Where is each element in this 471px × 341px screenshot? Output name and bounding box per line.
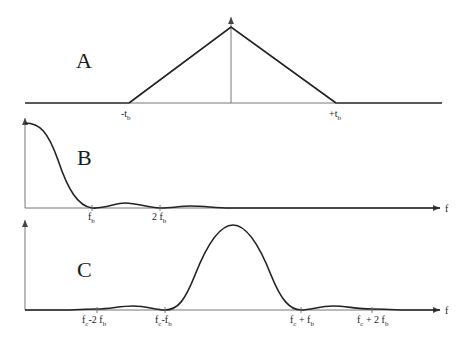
tick-fc-minus-2fb: fc-2 fb: [82, 314, 107, 328]
panel-a-triangle-pulse: [129, 27, 336, 103]
tick-minus-tb: -tb: [121, 108, 131, 122]
panel-b-label: B: [77, 145, 92, 170]
tick-fc-minus-fb: fc-fb: [155, 314, 172, 328]
tick-fc-plus-fb: fc + fb: [290, 314, 314, 328]
panel-a-label: A: [76, 48, 92, 73]
tick-2fb: 2 fb: [152, 211, 167, 225]
panel-b: B f fb 2 fb: [25, 118, 449, 225]
panel-c-axis-label: f: [445, 305, 449, 316]
panel-b-axis-label: f: [445, 203, 449, 214]
panel-c: C f fc-2 fb fc-fb fc + fb fc + 2 fb: [25, 220, 449, 328]
panel-a: A -tb +tb: [25, 17, 442, 122]
tick-fb: fb: [88, 211, 95, 225]
panel-c-label: C: [77, 257, 92, 282]
tick-fc-plus-2fb: fc + 2 fb: [357, 314, 389, 328]
signal-diagram: A -tb +tb B f fb 2 fb C f fc-2 fb fc-fb …: [0, 0, 471, 341]
tick-plus-tb: +tb: [329, 108, 341, 122]
